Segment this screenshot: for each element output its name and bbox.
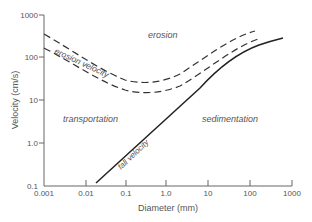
x-tick-0.001: 0.001 xyxy=(34,189,55,198)
y-tick-1: 1.0 xyxy=(27,139,39,148)
fall-velocity-label: fall velocity xyxy=(116,137,151,171)
x-tick-0.1: 0.1 xyxy=(120,189,132,198)
transportation-region-label: transportation xyxy=(63,114,118,124)
y-tick-1000: 1000 xyxy=(20,11,38,20)
y-tick-100: 100 xyxy=(25,53,39,62)
x-tick-labels: 0.001 0.01 0.1 1.0 10 100 1000 xyxy=(34,189,301,198)
x-axis xyxy=(44,180,292,186)
x-tick-100: 100 xyxy=(243,189,257,198)
x-tick-0.01: 0.01 xyxy=(78,189,94,198)
y-axis-title: Velocity (cm/s) xyxy=(10,71,20,130)
x-tick-1: 1.0 xyxy=(160,189,172,198)
sedimentation-region-label: sedimentation xyxy=(202,114,258,124)
erosion-velocity-lower-curve xyxy=(44,39,258,93)
chart-svg: 1000 100 10 1.0 0.1 0.001 0.01 0.1 1.0 1… xyxy=(0,0,312,222)
x-tick-1000: 1000 xyxy=(283,189,301,198)
x-axis-title: Diameter (mm) xyxy=(138,203,198,213)
y-tick-labels: 1000 100 10 1.0 0.1 xyxy=(20,11,38,191)
y-axis xyxy=(39,15,44,186)
y-tick-10: 10 xyxy=(29,96,38,105)
x-tick-10: 10 xyxy=(204,189,213,198)
hjulstrom-diagram: 1000 100 10 1.0 0.1 0.001 0.01 0.1 1.0 1… xyxy=(0,0,312,222)
erosion-region-label: erosion xyxy=(148,30,178,40)
erosion-velocity-label: erosion velocity xyxy=(53,46,111,80)
